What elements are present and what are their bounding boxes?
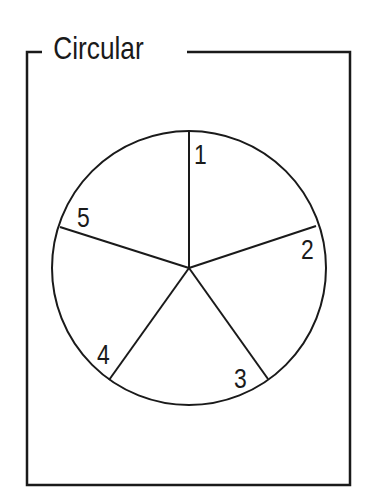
segment-label-2: 2 (301, 234, 314, 264)
circular-diagram: 1 2 3 4 5 (0, 0, 375, 504)
segment-label-5: 5 (77, 202, 90, 232)
segment-label-3: 3 (234, 363, 247, 393)
diagram-title: Circular (50, 30, 147, 66)
divider-5 (60, 227, 189, 268)
segment-label-4: 4 (97, 339, 110, 369)
divider-3 (189, 268, 268, 379)
segment-label-1: 1 (194, 139, 207, 169)
divider-4 (109, 268, 189, 380)
divider-2 (189, 226, 316, 268)
